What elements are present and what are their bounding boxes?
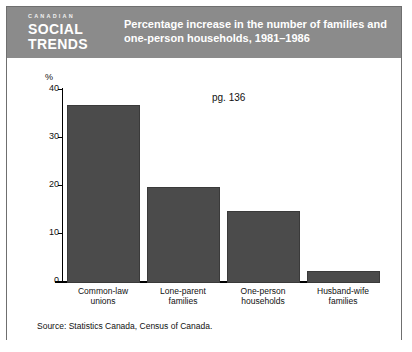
bar-column [67, 58, 140, 283]
bar[interactable] [307, 271, 380, 283]
x-axis-category-labels: Common-lawunionsLone-parentfamiliesOne-p… [63, 286, 383, 316]
chart-page: CANADIAN SOCIAL TRENDS Percentage increa… [0, 0, 412, 352]
source-note: Source: Statistics Canada, Census of Can… [37, 321, 212, 331]
logo-name-line1: SOCIAL [28, 22, 106, 36]
page-reference-annotation: pg. 136 [212, 92, 245, 103]
y-axis-tick [58, 137, 62, 138]
logo-name-line2: TRENDS [28, 37, 106, 51]
figure-header-band: CANADIAN SOCIAL TRENDS Percentage increa… [7, 7, 401, 58]
x-axis-category-label: Husband-wifefamilies [303, 286, 383, 306]
y-axis-tick [58, 89, 62, 90]
y-axis-tick-label: 40 [37, 84, 59, 93]
y-axis-tick-label: 30 [37, 132, 59, 141]
y-axis-tick-label: 20 [37, 180, 59, 189]
y-axis-tick [58, 233, 62, 234]
x-axis-category-label: Lone-parentfamilies [143, 286, 223, 306]
x-axis-category-label-line: Lone-parent [143, 286, 223, 296]
y-axis-tick-label: 10 [37, 228, 59, 237]
x-axis-category-label: Common-lawunions [63, 286, 143, 306]
x-axis-category-label-line: households [223, 296, 303, 306]
x-axis-category-label-line: Husband-wife [303, 286, 383, 296]
x-axis-category-label-line: Common-law [63, 286, 143, 296]
y-axis-tick-labels: 010203040 [29, 58, 59, 298]
bar[interactable] [147, 187, 220, 283]
chart-plot-area: % 010203040 Common-lawunionsLone-parentf… [7, 58, 401, 340]
x-axis-category-label-line: unions [63, 296, 143, 306]
x-axis-category-label-line: One-person [223, 286, 303, 296]
chart-title-line-2: one-person households, 1981–1986 [124, 31, 396, 45]
publication-logo: CANADIAN SOCIAL TRENDS [28, 14, 106, 51]
bar[interactable] [227, 211, 300, 283]
x-axis-category-label-line: families [143, 296, 223, 306]
logo-eyebrow: CANADIAN [28, 14, 106, 20]
y-axis-tick [58, 185, 62, 186]
bar[interactable] [67, 105, 140, 283]
y-axis-tick [58, 281, 62, 282]
chart-title-line-1: Percentage increase in the number of fam… [124, 17, 396, 31]
x-axis-category-label-line: families [303, 296, 383, 306]
chart-title: Percentage increase in the number of fam… [124, 17, 396, 45]
bar-column [147, 58, 220, 283]
bar-column [307, 58, 380, 283]
x-axis-category-label: One-personhouseholds [223, 286, 303, 306]
